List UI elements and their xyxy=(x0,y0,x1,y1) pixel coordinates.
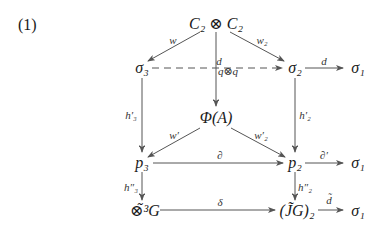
label-w: w xyxy=(169,35,176,46)
label-w2: w₂ xyxy=(256,35,267,46)
label-h3-prime: h′₃ xyxy=(125,110,137,121)
label-partial-prime: ∂′ xyxy=(320,150,328,161)
node-c2-tensor-c2: C₂ ⊗ C₂ xyxy=(189,16,243,32)
label-h2-prime: h′₂ xyxy=(299,110,311,121)
label-partial: ∂ xyxy=(217,150,222,161)
node-phi-a: Φ(A) xyxy=(200,110,233,126)
label-h2-dprime: h″₂ xyxy=(298,182,312,193)
node-sigma1-row3: σ₁ xyxy=(351,203,364,219)
node-sigma3: σ₃ xyxy=(135,60,148,76)
label-d-tilde: d̃ xyxy=(326,195,332,206)
equation-number: (1) xyxy=(18,16,37,34)
label-q-tensor-q: q⊗q xyxy=(218,66,238,77)
label-w-prime: w′ xyxy=(169,130,179,141)
node-p2: p₂ xyxy=(288,155,302,171)
label-delta: δ xyxy=(217,197,222,208)
node-sigma1-row1: σ₁ xyxy=(351,60,364,76)
node-p3: p₃ xyxy=(135,155,149,171)
label-d-right: d xyxy=(321,56,327,67)
node-jg2: (J̃G)₂ xyxy=(280,203,315,219)
node-tensor3-g: ⊗̃³G xyxy=(130,203,160,219)
node-sigma1-row2: σ₁ xyxy=(351,155,364,171)
label-w2-prime: w′₂ xyxy=(254,130,268,141)
node-sigma2: σ₂ xyxy=(288,60,301,76)
label-h3-dprime: h″₃ xyxy=(124,182,138,193)
